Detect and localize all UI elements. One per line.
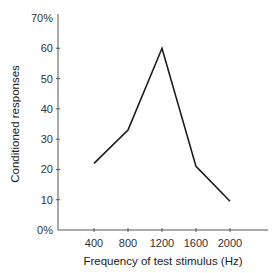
x-axis: 400800120016002000 (58, 228, 268, 249)
line-chart: 0%10203040506070% 400800120016002000 Fre… (0, 0, 276, 273)
x-tick-label: 2000 (218, 237, 242, 249)
y-tick-label: 0% (37, 224, 53, 236)
x-tick-label: 1600 (184, 237, 208, 249)
y-tick-label: 10 (41, 194, 53, 206)
y-tick-label: 60 (41, 42, 53, 54)
y-tick-label: 20 (41, 163, 53, 175)
series-line (94, 48, 230, 201)
y-axis-label: Conditioned responses (9, 65, 21, 183)
x-tick-label: 400 (85, 237, 103, 249)
x-tick-label: 800 (119, 237, 137, 249)
x-tick-label: 1200 (150, 237, 174, 249)
y-axis: 0%10203040506070% (31, 12, 60, 236)
y-tick-label: 70% (31, 12, 53, 24)
x-axis-label: Frequency of test stimulus (Hz) (83, 255, 242, 267)
y-tick-label: 30 (41, 133, 53, 145)
data-series (94, 48, 230, 201)
y-tick-label: 40 (41, 103, 53, 115)
y-tick-label: 50 (41, 73, 53, 85)
